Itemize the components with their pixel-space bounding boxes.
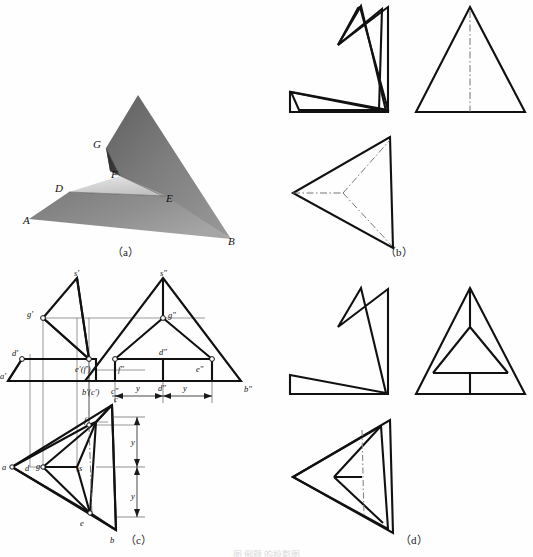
label-a: a [2,462,6,472]
label-bc-prime: b′(c′) [82,387,100,397]
label-d-dprime: d″ [159,347,167,357]
label-dim-y-upper: y [130,437,135,447]
caption-b: （b） [385,243,413,259]
b-front-outline [290,6,388,112]
c-side-view [85,278,241,381]
c-arrow-up2 [134,467,140,475]
label-dim-y-left: y [135,383,140,393]
label-a-prime: a′ [0,371,6,381]
panel-b-three-views [270,0,533,270]
caption-a: （a） [112,243,139,259]
panel-d-drawing [270,265,533,557]
c-node-g [41,465,45,469]
caption-c: （c） [125,531,152,547]
label-d: d [25,463,30,473]
c-node-g-prime [41,316,46,321]
label-e: e [80,518,84,528]
c-arrow-right [204,393,212,399]
label-F: F [110,168,118,180]
label-G: G [93,138,101,150]
label-dim-d-mid: d″ [158,383,166,393]
panel-d-three-views [270,265,533,557]
figure-root: A B D E F G （a） （b） [0,0,533,557]
label-dim-y-lower: y [130,491,135,501]
panel-b-drawing [270,0,533,270]
c-arrow-up1 [134,417,140,425]
label-d-prime: d′ [12,348,18,358]
d-side-view-inner [433,288,508,373]
label-f-dprime: f″ [118,364,124,374]
c-node-f [87,423,91,427]
panel-c-drawing: s′ g′ d′ a′ e′(f′) b′(c′) s″ g″ d″ f″ e″… [0,265,270,557]
label-b-dprime: b″ [244,384,252,394]
label-B: B [228,235,235,247]
c-arrow-dn2 [134,509,140,517]
c-node-e-dprime [210,357,215,362]
label-g-dprime: g″ [168,310,176,320]
label-s-prime: s′ [74,268,79,278]
label-s-dprime: s″ [160,268,167,278]
c-arrow-mid-left [155,393,163,399]
c-node-e [88,511,92,515]
c-top-dimension-chain [96,417,145,517]
d-front-view [290,288,388,394]
label-D: D [54,182,63,194]
label-s: s [79,463,83,473]
label-A: A [22,214,30,226]
label-ef-prime: e′(f′) [75,364,91,374]
label-c: c [114,394,118,404]
panel-a-pictorial: A B D E F G [0,0,270,270]
c-node-f-dprime [113,357,118,362]
d-top-view-inner2 [334,426,383,523]
label-g-prime: g′ [27,309,33,319]
c-node-ef-prime [87,357,92,362]
c-node-a [10,465,14,469]
c-node-g-dprime [161,316,166,321]
c-arrow-dn1 [134,459,140,467]
figure-bottom-caption: 图 例题 的投影图 [0,548,533,557]
b-side-view [416,7,525,112]
caption-d: （d） [400,531,428,547]
label-g: g [36,461,40,471]
label-e-dprime: e″ [196,364,204,374]
label-E: E [165,192,173,204]
label-dim-y-right: y [182,383,187,393]
c-node-d-prime [20,357,25,362]
c-arrow-mid-right [163,393,171,399]
panel-c-projection: s′ g′ d′ a′ e′(f′) b′(c′) s″ g″ d″ f″ e″… [0,265,270,557]
b-top-spokes [293,140,392,246]
panel-a-drawing: A B D E F G [0,0,270,270]
label-b: b [110,535,114,545]
